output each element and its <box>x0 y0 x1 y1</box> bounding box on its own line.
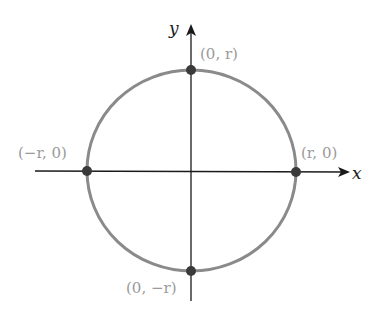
point-left <box>82 166 92 176</box>
point-bottom-label: (0, −r) <box>126 279 177 297</box>
circle-diagram: y x (0, r) (−r, 0) (r, 0) (0, −r) <box>0 0 383 317</box>
point-top-label: (0, r) <box>200 45 238 63</box>
point-right <box>291 167 301 177</box>
point-top <box>186 65 196 75</box>
point-right-label: (r, 0) <box>301 144 337 162</box>
x-axis-label: x <box>352 163 362 183</box>
point-left-label: (−r, 0) <box>18 144 67 162</box>
y-axis-label: y <box>168 18 179 38</box>
point-bottom <box>186 266 196 276</box>
